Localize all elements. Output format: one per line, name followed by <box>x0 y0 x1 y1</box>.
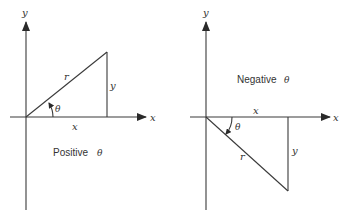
x-axis-label: x <box>150 112 156 123</box>
caption-theta: θ <box>97 148 103 158</box>
adj-label: x <box>72 121 78 132</box>
caption-negative: Negative <box>237 74 277 85</box>
y-axis-label: y <box>21 7 28 18</box>
positive-angle-figure: y x θ r y x Positive θ <box>10 7 156 210</box>
opp-label: y <box>109 80 116 91</box>
hyp-label: r <box>64 71 70 82</box>
trig-angle-diagram: y x θ r y x Positive θ y x θ r y x Negat… <box>0 0 344 218</box>
y-axis-label: y <box>202 7 209 18</box>
angle-arc-ccw <box>49 103 53 117</box>
negative-angle-figure: y x θ r y x Negative θ <box>190 7 339 210</box>
opp-label: y <box>291 145 298 156</box>
caption-positive: Positive <box>53 147 88 158</box>
adj-label: x <box>253 105 259 116</box>
angle-theta-label: θ <box>235 122 241 132</box>
hypotenuse-r <box>206 117 288 191</box>
angle-theta-label: θ <box>55 104 61 114</box>
x-axis-label: x <box>333 112 339 123</box>
angle-arc-cw <box>226 117 232 134</box>
hypotenuse-r <box>26 52 107 117</box>
caption-theta: θ <box>284 75 290 85</box>
